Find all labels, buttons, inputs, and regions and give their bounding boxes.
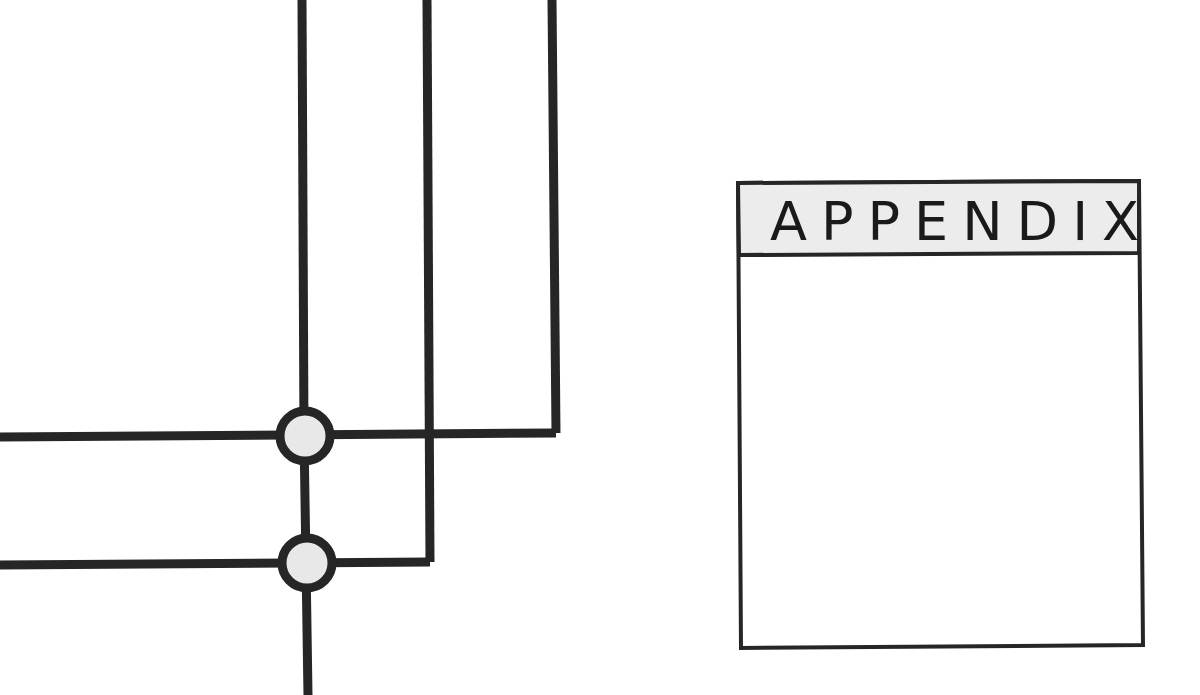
wires	[0, 0, 556, 695]
junction-node-bottom	[282, 538, 332, 588]
wiring-diagram: APPENDIX	[0, 0, 1200, 695]
wire-v2	[427, 0, 430, 562]
wire-h2	[0, 562, 430, 565]
panel-title: APPENDIX	[770, 190, 1153, 253]
wire-v1	[302, 0, 304, 436]
appendix-panel: APPENDIX	[738, 181, 1153, 648]
wire-v3	[552, 0, 556, 433]
junction-node-top	[280, 411, 330, 461]
